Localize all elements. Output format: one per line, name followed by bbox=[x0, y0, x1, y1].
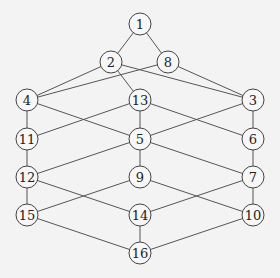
node-2: 2 bbox=[100, 51, 122, 73]
diagram-canvas: 12841331156129715141016 bbox=[0, 0, 280, 278]
node-label: 4 bbox=[23, 93, 31, 108]
node-label: 9 bbox=[136, 170, 144, 185]
node-8: 8 bbox=[157, 51, 179, 73]
node-6: 6 bbox=[242, 128, 264, 150]
edge-10-16 bbox=[140, 215, 253, 253]
node-7: 7 bbox=[242, 166, 264, 188]
node-4: 4 bbox=[16, 89, 38, 111]
nodes-layer: 12841331156129715141016 bbox=[16, 13, 264, 264]
node-label: 1 bbox=[136, 17, 144, 32]
node-label: 16 bbox=[132, 246, 149, 261]
node-label: 15 bbox=[19, 208, 36, 223]
hasse-diagram: 12841331156129715141016 bbox=[0, 0, 280, 278]
node-12: 12 bbox=[16, 166, 38, 188]
node-label: 12 bbox=[19, 170, 36, 185]
node-label: 14 bbox=[132, 208, 149, 223]
edge-5-7 bbox=[140, 139, 253, 177]
node-label: 3 bbox=[249, 93, 257, 108]
node-11: 11 bbox=[16, 128, 38, 150]
node-label: 8 bbox=[164, 55, 172, 70]
node-9: 9 bbox=[129, 166, 151, 188]
node-3: 3 bbox=[242, 89, 264, 111]
node-16: 16 bbox=[129, 242, 151, 264]
node-label: 13 bbox=[132, 93, 149, 108]
node-5: 5 bbox=[129, 128, 151, 150]
node-label: 6 bbox=[249, 132, 257, 147]
node-10: 10 bbox=[242, 204, 264, 226]
node-14: 14 bbox=[129, 204, 151, 226]
node-1: 1 bbox=[129, 13, 151, 35]
edge-5-12 bbox=[27, 139, 140, 177]
node-label: 2 bbox=[107, 55, 115, 70]
node-label: 10 bbox=[245, 208, 262, 223]
node-15: 15 bbox=[16, 204, 38, 226]
node-label: 11 bbox=[19, 132, 36, 147]
edge-15-16 bbox=[27, 215, 140, 253]
node-label: 7 bbox=[249, 170, 257, 185]
node-13: 13 bbox=[129, 89, 151, 111]
node-label: 5 bbox=[136, 132, 144, 147]
